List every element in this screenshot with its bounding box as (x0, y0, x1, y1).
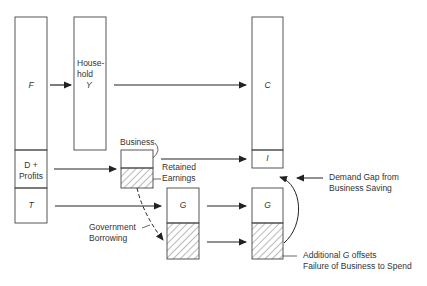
government-spending-label-mid: G (167, 200, 199, 211)
additional-g-suffix: offsets (349, 250, 376, 260)
demand-gap-label-line2: Business Saving (329, 183, 392, 194)
demand-gap-label-line1: Demand Gap from (329, 172, 399, 183)
retained-earnings-hatch (121, 168, 153, 188)
additional-g-prefix: Additional (303, 250, 343, 260)
taxes-label: T (15, 200, 47, 211)
household-label-line3: Y (86, 80, 92, 91)
government-borrowing-hatch-mid (167, 223, 199, 259)
consumption-label: C (252, 80, 283, 91)
additional-g-label-line1: Additional G offsets (303, 250, 377, 261)
government-spending-label-right: G (252, 200, 283, 211)
business-label: Business (120, 137, 155, 148)
flow-diagram (0, 0, 427, 286)
government-borrowing-label-line1: Government (89, 222, 136, 233)
additional-g-label-line2: Failure of Business to Spend (303, 261, 412, 272)
additional-government-hatch-right (252, 223, 283, 259)
government-borrowing-leader-line (142, 225, 150, 228)
investment-label: I (252, 153, 283, 164)
retained-earnings-label-line2: Earnings (162, 173, 196, 184)
household-label-line1: House- (77, 58, 104, 69)
household-label-line2: hold (77, 69, 93, 80)
arrow-retained-earnings-to-borrowing (137, 188, 163, 240)
factor-income-label: F (15, 80, 47, 91)
business-box (121, 150, 153, 168)
government-borrowing-label-line2: Borrowing (89, 233, 127, 244)
profits-label-line1: D + (15, 160, 47, 171)
income-source-column (15, 17, 47, 223)
profits-label-line2: Profits (15, 171, 47, 182)
retained-earnings-label-line1: Retained (162, 162, 196, 173)
